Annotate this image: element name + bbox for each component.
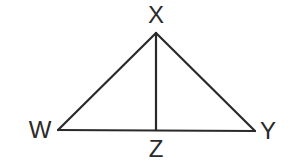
vertex-label-y: Y — [260, 117, 276, 144]
triangle-diagram: X W Y Z — [0, 0, 300, 168]
vertex-label-w: W — [29, 116, 52, 143]
point-label-z: Z — [149, 135, 164, 162]
vertex-label-x: X — [148, 1, 164, 28]
segment-xy — [156, 33, 255, 131]
segment-wx — [58, 33, 156, 130]
